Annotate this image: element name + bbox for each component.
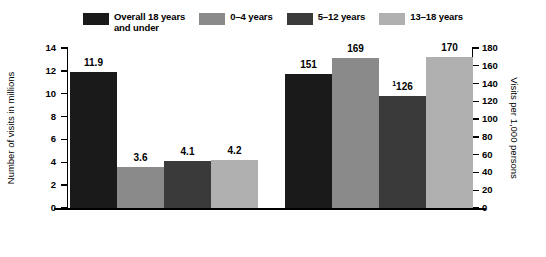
- left-tick-mark: [61, 47, 68, 48]
- bar: [379, 96, 426, 208]
- legend-13-18: 13–18 years: [379, 12, 463, 25]
- bar: [70, 72, 117, 208]
- legend-label: 5–12 years: [318, 12, 366, 23]
- right-tick-label: 0: [482, 203, 508, 213]
- right-tick-label: 20: [482, 185, 508, 195]
- right-tick-mark: [472, 172, 479, 173]
- right-tick-mark: [472, 65, 479, 66]
- bar: [332, 58, 379, 208]
- bar-value-label: 1126: [392, 82, 413, 92]
- right-tick-label: 100: [482, 114, 508, 124]
- bar-value-label: 4.2: [228, 146, 242, 156]
- footnote-marker: 1: [392, 80, 396, 87]
- left-tick-label: 0: [32, 203, 56, 213]
- right-tick-label: 160: [482, 61, 508, 71]
- left-tick-label: 10: [32, 89, 56, 99]
- legend-swatch-icon: [287, 13, 313, 25]
- legend-swatch-icon: [199, 13, 225, 25]
- plot-area: 02468101214 020406080100120140160180 Num…: [68, 48, 472, 208]
- left-tick-label: 4: [32, 158, 56, 168]
- right-axis-title: Visits per 1,000 persons: [509, 77, 520, 179]
- left-tick-label: 14: [32, 43, 56, 53]
- bar-value-label: 169: [347, 44, 364, 54]
- left-tick-mark: [61, 162, 68, 163]
- legend-swatch-icon: [83, 13, 109, 25]
- left-tick-mark: [61, 184, 68, 185]
- baseline-axis: [54, 208, 486, 210]
- left-tick-mark: [61, 116, 68, 117]
- legend-swatch-icon: [379, 13, 405, 25]
- legend-5-12: 5–12 years: [287, 12, 366, 25]
- right-tick-label: 140: [482, 79, 508, 89]
- right-tick-mark: [472, 101, 479, 102]
- bar-chart: Overall 18 years and under0–4 years5–12 …: [0, 0, 546, 257]
- bar: [164, 161, 211, 208]
- legend-label: Overall 18 years and under: [114, 12, 185, 33]
- bar-value-label: 11.9: [84, 58, 103, 68]
- right-tick-label: 120: [482, 97, 508, 107]
- right-tick-mark: [472, 190, 479, 191]
- legend-label: 0–4 years: [230, 12, 272, 23]
- left-tick-mark: [61, 139, 68, 140]
- left-tick-label: 2: [32, 180, 56, 190]
- left-tick-mark: [61, 93, 68, 94]
- bar: [211, 160, 258, 208]
- left-tick-mark: [61, 70, 68, 71]
- left-tick-label: 6: [32, 135, 56, 145]
- right-tick-mark: [472, 47, 479, 48]
- right-tick-label: 40: [482, 168, 508, 178]
- bar-value-label: 4.1: [181, 147, 195, 157]
- right-tick-label: 180: [482, 43, 508, 53]
- bar-value-label: 3.6: [134, 153, 148, 163]
- bar-value-label: 151: [300, 60, 317, 70]
- legend-overall: Overall 18 years and under: [83, 12, 185, 33]
- right-tick-label: 80: [482, 132, 508, 142]
- legend-0-4: 0–4 years: [199, 12, 272, 25]
- left-tick-mark: [61, 207, 68, 208]
- left-axis-title: Number of visits in millions: [5, 72, 16, 184]
- right-tick-mark: [472, 83, 479, 84]
- legend-label: 13–18 years: [410, 12, 463, 23]
- bar: [285, 74, 332, 208]
- left-tick-label: 12: [32, 66, 56, 76]
- left-tick-label: 8: [32, 112, 56, 122]
- bar: [117, 167, 164, 208]
- chart-legend: Overall 18 years and under0–4 years5–12 …: [0, 12, 546, 33]
- right-tick-mark: [472, 136, 479, 137]
- right-tick-mark: [472, 207, 479, 208]
- right-tick-label: 60: [482, 150, 508, 160]
- right-tick-mark: [472, 118, 479, 119]
- bar-value-label: 170: [441, 43, 458, 53]
- right-tick-mark: [472, 154, 479, 155]
- bar: [426, 57, 473, 208]
